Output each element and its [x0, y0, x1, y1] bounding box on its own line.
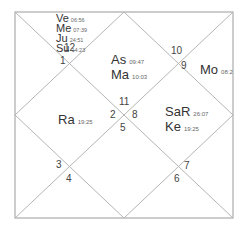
- planet-moon-name: Mo: [200, 62, 218, 77]
- planet-saturn-name: SaR: [165, 104, 190, 119]
- planet-ketu-degree: 19:25: [184, 126, 199, 132]
- horoscope-chart: 1 2 3 4 5 6 7 8 9 10 11 12 Ve06:56 Me07:…: [0, 0, 247, 228]
- planet-rahu-degree: 19:25: [78, 119, 93, 125]
- planet-ascendant-name: As: [111, 52, 126, 67]
- planet-ketu-name: Ke: [165, 119, 181, 134]
- planet-ketu: Ke19:25: [165, 120, 199, 133]
- planet-rahu: Ra19:25: [58, 113, 93, 126]
- planet-ascendant: As09:47: [111, 53, 144, 66]
- house-number-11: 11: [119, 97, 129, 107]
- planet-sun-degree: 14:23: [71, 47, 85, 53]
- planet-moon: Mo08:2: [200, 63, 233, 76]
- chart-lines: [0, 0, 247, 228]
- planet-mars: Ma10:03: [111, 68, 147, 81]
- planet-moon-degree: 08:2: [221, 69, 233, 75]
- planet-sun: Su14:23: [56, 43, 85, 54]
- house-number-6: 6: [174, 174, 180, 184]
- house-number-5: 5: [120, 123, 126, 133]
- planet-sun-name: Su: [56, 42, 69, 54]
- house-number-9: 9: [181, 61, 187, 71]
- house-number-1: 1: [60, 56, 66, 66]
- planet-mars-degree: 10:03: [132, 74, 147, 80]
- house-number-7: 7: [184, 161, 190, 171]
- house-number-3: 3: [56, 160, 62, 170]
- house-number-8: 8: [132, 110, 138, 120]
- planet-rahu-name: Ra: [58, 112, 75, 127]
- planet-mars-name: Ma: [111, 67, 129, 82]
- planet-saturn-retrograde: SaR26:07: [165, 105, 208, 118]
- planet-ascendant-degree: 09:47: [129, 59, 144, 65]
- house-number-4: 4: [66, 174, 72, 184]
- house-number-2: 2: [110, 110, 116, 120]
- planet-saturn-degree: 26:07: [193, 111, 208, 117]
- house-number-10: 10: [171, 46, 182, 56]
